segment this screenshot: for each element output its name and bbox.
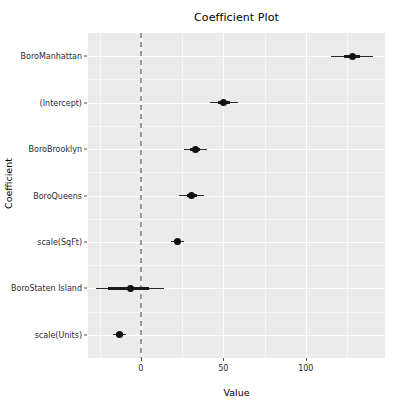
gridline-y-major <box>88 196 385 197</box>
gridline-y-minor <box>88 219 385 220</box>
gridline-y-minor <box>88 172 385 173</box>
gridline-y-major <box>88 149 385 150</box>
y-tick-mark <box>84 102 87 103</box>
y-tick-mark <box>84 288 87 289</box>
y-axis-title: Coefficient <box>3 148 14 220</box>
y-tick-label: BoroQueens <box>33 191 82 200</box>
x-axis-title: Value <box>88 387 385 398</box>
gridline-y-minor <box>88 265 385 266</box>
estimate-point[interactable] <box>174 238 181 245</box>
y-tick-mark <box>84 241 87 242</box>
zero-reference-line <box>140 33 142 358</box>
y-tick-mark <box>84 56 87 57</box>
estimate-point[interactable] <box>188 192 195 199</box>
y-tick-label: scale(SqFt) <box>37 237 82 246</box>
y-tick-label: (Intercept) <box>40 98 82 107</box>
plot-title: Coefficient Plot <box>88 11 385 24</box>
x-tick-label: 50 <box>218 364 228 373</box>
gridline-y-minor <box>88 126 385 127</box>
gridline-y-minor <box>88 312 385 313</box>
estimate-point[interactable] <box>349 53 356 60</box>
gridline-y-major <box>88 242 385 243</box>
y-tick-mark <box>84 334 87 335</box>
x-tick-mark <box>223 358 224 361</box>
y-tick-label: scale(Units) <box>35 330 82 339</box>
estimate-point[interactable] <box>116 331 123 338</box>
y-tick-label: BoroStaten Island <box>11 284 82 293</box>
gridline-y-minor <box>88 79 385 80</box>
estimate-point[interactable] <box>192 146 199 153</box>
x-tick-mark <box>306 358 307 361</box>
y-tick-label: BoroBrooklyn <box>29 145 82 154</box>
x-tick-mark <box>141 358 142 361</box>
y-tick-mark <box>84 195 87 196</box>
coefficient-plot: Coefficient Plot Coefficient Value BoroM… <box>0 0 404 412</box>
estimate-point[interactable] <box>220 99 227 106</box>
estimate-point[interactable] <box>127 285 134 292</box>
y-tick-mark <box>84 149 87 150</box>
gridline-y-major <box>88 335 385 336</box>
x-tick-label: 100 <box>298 364 313 373</box>
x-tick-label: 0 <box>138 364 143 373</box>
y-tick-label: BoroManhattan <box>21 52 82 61</box>
plot-panel <box>88 33 385 358</box>
